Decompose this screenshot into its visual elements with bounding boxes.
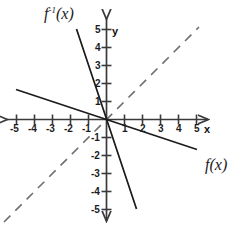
- curve-label-f-inverse: f-1(x): [44, 6, 74, 22]
- x-tick-label-5: 5: [194, 124, 200, 134]
- y-tick-label-4: 4: [95, 43, 101, 53]
- y-tick-label-1: 1: [95, 97, 101, 107]
- curve-label-f-inverse-arg: (x): [56, 5, 74, 22]
- x-tick-label-neg5: -5: [10, 124, 19, 134]
- y-tick-label-2: 2: [95, 79, 101, 89]
- curve-label-f: f(x): [205, 157, 227, 173]
- y-axis-name: y: [112, 26, 118, 37]
- y-tick-label-5: 5: [95, 25, 101, 35]
- coordinate-plane: [0, 0, 252, 227]
- x-axis-name: x: [204, 124, 210, 135]
- y-tick-label-neg1: -1: [91, 133, 100, 143]
- x-tick-label-neg1: -1: [82, 124, 91, 134]
- y-tick-label-neg4: -4: [91, 187, 100, 197]
- x-tick-label-4: 4: [176, 124, 182, 134]
- x-tick-label-neg3: -3: [46, 124, 55, 134]
- x-tick-label-3: 3: [158, 124, 164, 134]
- y-tick-label-neg5: -5: [91, 205, 100, 215]
- graph-figure: -5 -4 -3 -2 -1 1 2 3 4 5 5 4 3 2 1 -1 -2…: [0, 0, 252, 227]
- y-tick-label-neg3: -3: [91, 169, 100, 179]
- curve-label-f-arg: (x): [209, 156, 227, 173]
- x-tick-label-2: 2: [140, 124, 146, 134]
- x-tick-label-1: 1: [122, 124, 128, 134]
- y-tick-label-3: 3: [95, 61, 101, 71]
- y-tick-label-neg2: -2: [91, 151, 100, 161]
- x-tick-label-neg2: -2: [64, 124, 73, 134]
- curve-label-f-inverse-exponent: -1: [48, 5, 56, 15]
- x-tick-label-neg4: -4: [28, 124, 37, 134]
